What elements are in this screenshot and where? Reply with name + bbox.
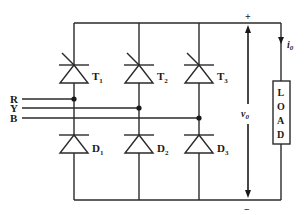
output-voltage-arrow — [245, 25, 251, 198]
input-label-b: B — [10, 112, 18, 124]
diode-d3 — [184, 135, 214, 153]
circuit-diagram: R Y B T1 T2 T3 D1 D2 D3 v0 + − i0 L O A … — [0, 0, 307, 215]
load-letter-a: A — [277, 115, 285, 126]
output-current-arrow-icon — [278, 37, 284, 44]
diode-d2 — [124, 135, 154, 153]
output-current-label: i0 — [287, 39, 294, 52]
plus-sign: + — [245, 11, 251, 22]
output-voltage-label: v0 — [241, 108, 249, 121]
load-letter-l: L — [278, 87, 285, 98]
load-letter-d: D — [277, 129, 284, 140]
gate-icon — [62, 53, 74, 65]
diode-label-d3: D3 — [217, 142, 229, 157]
gate-icon — [187, 53, 199, 65]
minus-sign: − — [244, 204, 250, 215]
diode-label-d2: D2 — [157, 142, 169, 157]
junction-dot-b — [196, 115, 201, 120]
diode-label-d1: D1 — [92, 142, 104, 157]
thyristor-label-t1: T1 — [92, 70, 103, 85]
junction-dot-y — [136, 105, 141, 110]
load-letter-o: O — [277, 101, 285, 112]
thyristor-label-t3: T3 — [217, 70, 228, 85]
gate-icon — [127, 53, 139, 65]
junction-dot-r — [71, 96, 76, 101]
thyristor-label-t2: T2 — [157, 70, 168, 85]
diode-d1 — [59, 135, 89, 153]
